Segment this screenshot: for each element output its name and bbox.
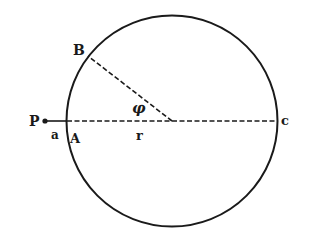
- label-B: B: [73, 42, 85, 58]
- label-c: c: [281, 113, 289, 128]
- label-phi: φ: [132, 99, 146, 117]
- point-p-dot: [42, 118, 47, 123]
- dashed-radius-center-b: [88, 56, 172, 121]
- geometry-diagram: P a A B c r φ: [0, 0, 312, 234]
- label-r: r: [136, 128, 143, 143]
- label-p: P: [29, 113, 40, 129]
- label-a-small: a: [51, 128, 59, 142]
- label-A: A: [69, 131, 81, 146]
